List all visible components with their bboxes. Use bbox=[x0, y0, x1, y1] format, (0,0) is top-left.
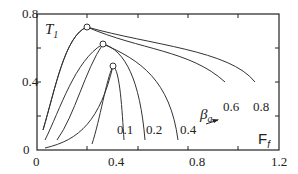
peak-marker-0.8 bbox=[84, 24, 90, 30]
curve-base bbox=[45, 66, 113, 148]
y-tick-0.4: 0.4 bbox=[22, 74, 39, 89]
curve-label-0.8: 0.8 bbox=[253, 99, 269, 114]
y-tick-0.8: 0.8 bbox=[22, 6, 38, 21]
x-axis-label: Ff bbox=[258, 130, 271, 150]
chart: 0.8 0.4 0 0 0.4 0.8 1.2 T1 Ff 0.1 0.2 0.… bbox=[0, 0, 298, 174]
x-tick-0.4: 0.4 bbox=[108, 154, 125, 169]
curve-beta-0.8 bbox=[43, 27, 255, 130]
x-tick-0: 0 bbox=[33, 154, 40, 169]
curve-label-0.1: 0.1 bbox=[117, 122, 133, 137]
peak-marker-0.1 bbox=[110, 63, 116, 69]
x-tick-0.8: 0.8 bbox=[189, 154, 205, 169]
x-tick-1.2: 1.2 bbox=[271, 154, 287, 169]
y-axis-label: T1 bbox=[45, 21, 58, 40]
y-tick-0: 0 bbox=[23, 142, 30, 157]
arrow-head-icon bbox=[212, 119, 219, 123]
curve-label-0.6: 0.6 bbox=[223, 99, 240, 114]
curve-label-0.2: 0.2 bbox=[146, 122, 162, 137]
peak-marker-0.4 bbox=[100, 41, 106, 47]
curve-label-0.4: 0.4 bbox=[180, 122, 197, 137]
beta-annotation: βa bbox=[199, 106, 212, 124]
